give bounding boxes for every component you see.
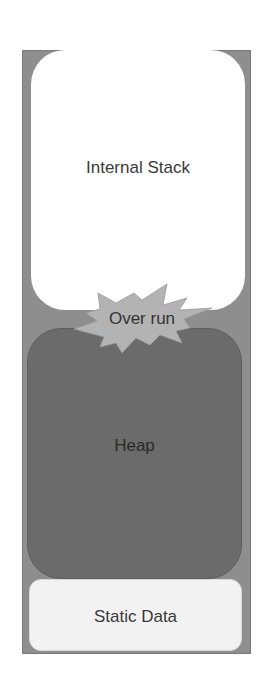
internal-stack-label: Internal Stack (86, 158, 190, 178)
memory-diagram: Internal Stack Heap Static Data Over run (0, 0, 263, 693)
heap-region: Heap (27, 328, 242, 579)
overrun-label: Over run (72, 309, 212, 329)
static-data-region: Static Data (29, 579, 242, 651)
static-data-label: Static Data (94, 607, 177, 627)
heap-label: Heap (114, 436, 155, 456)
internal-stack-region: Internal Stack (31, 50, 245, 310)
